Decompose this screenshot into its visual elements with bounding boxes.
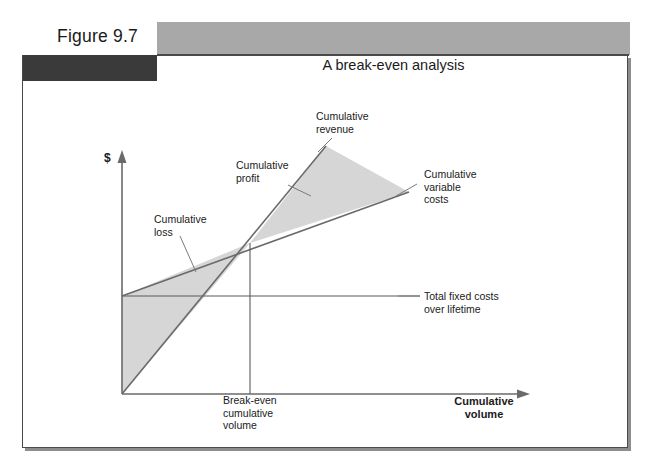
label-cumulative-loss: Cumulative loss bbox=[154, 213, 207, 238]
cumulative-revenue-line bbox=[122, 146, 326, 394]
cumulative-variable-costs-line bbox=[122, 192, 409, 296]
label-break-even-volume: Break-even cumulative volume bbox=[223, 394, 277, 432]
y-axis-label: $ bbox=[104, 152, 111, 165]
label-cumulative-revenue: Cumulative revenue bbox=[316, 110, 369, 135]
label-cumulative-variable-costs: Cumulative variable costs bbox=[424, 168, 477, 206]
y-axis-arrow-icon bbox=[118, 150, 127, 163]
label-cumulative-profit: Cumulative profit bbox=[236, 159, 289, 184]
leader-line-cumulative-loss bbox=[180, 236, 196, 272]
break-even-chart bbox=[0, 0, 652, 472]
figure-page: Figure 9.7 A break-even analysis $ Cumul… bbox=[0, 0, 652, 472]
label-total-fixed-costs: Total fixed costs over lifetime bbox=[424, 290, 499, 315]
x-axis-label: Cumulative volume bbox=[438, 395, 530, 420]
